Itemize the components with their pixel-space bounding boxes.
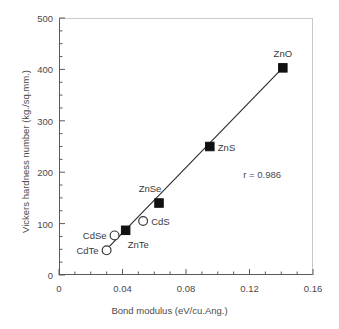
data-point-label: CdSe	[83, 230, 107, 241]
x-tick-label: 0.04	[113, 283, 132, 294]
x-axis-title: Bond modulus (eV/cu.Ang.)	[0, 305, 339, 316]
scatter-plot-figure: 010020030040050000.040.080.120.16 ZnTeZn…	[0, 0, 339, 329]
data-point-label: ZnO	[274, 48, 292, 59]
x-tick-label: 0	[56, 283, 61, 294]
x-tick-label: 0.16	[304, 283, 323, 294]
y-axis-title: Vickers hardness number (kg./sq.mm.)	[20, 22, 31, 282]
data-point-label: ZnSe	[139, 183, 162, 194]
data-point-label: ZnTe	[128, 239, 149, 250]
x-tick-label: 0.12	[240, 283, 259, 294]
correlation-annotation: r = 0.986	[243, 169, 281, 180]
data-point-label: CdS	[151, 216, 169, 227]
x-tick-label: 0.08	[177, 283, 196, 294]
data-point-label: ZnS	[218, 141, 235, 152]
data-point-label: CdTe	[76, 245, 98, 256]
